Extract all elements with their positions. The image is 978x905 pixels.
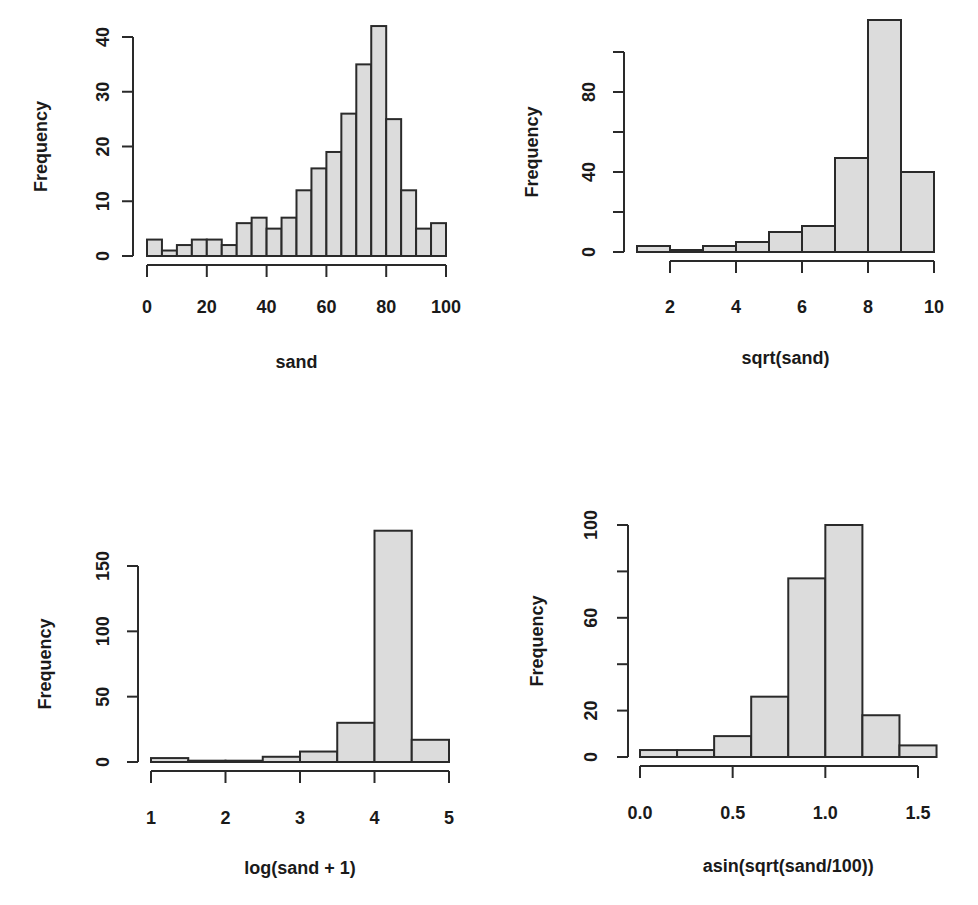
histogram-bar bbox=[868, 20, 901, 252]
x-axis-label: asin(sqrt(sand/100)) bbox=[703, 856, 874, 876]
histogram-bar bbox=[151, 758, 188, 762]
x-tick-label: 1.5 bbox=[905, 803, 930, 823]
y-axis-label: Frequency bbox=[31, 101, 51, 192]
x-tick-label: 2 bbox=[220, 808, 230, 828]
x-tick-label: 5 bbox=[444, 808, 454, 828]
histogram-bar bbox=[703, 246, 736, 252]
histogram-bar bbox=[375, 531, 412, 762]
histogram-bar bbox=[162, 251, 177, 256]
x-tick-label: 10 bbox=[924, 297, 944, 317]
histogram-bar bbox=[736, 242, 769, 252]
histogram-panel-3: 05010015012345log(sand + 1)Frequency bbox=[35, 531, 454, 878]
y-tick-label: 80 bbox=[579, 82, 599, 102]
x-tick-label: 4 bbox=[369, 808, 379, 828]
histogram-bar bbox=[769, 232, 802, 252]
x-tick-label: 0.5 bbox=[720, 803, 745, 823]
histogram-bar bbox=[300, 752, 337, 762]
histogram-grid: 010203040020406080100sandFrequency040802… bbox=[0, 0, 978, 905]
y-tick-label: 40 bbox=[579, 162, 599, 182]
histogram-bar bbox=[282, 218, 297, 256]
histogram-bar bbox=[252, 218, 267, 256]
histogram-bar bbox=[862, 715, 899, 757]
x-tick-label: 0 bbox=[142, 297, 152, 317]
x-tick-label: 0.0 bbox=[627, 803, 652, 823]
histogram-bar bbox=[899, 745, 936, 757]
histogram-bar bbox=[386, 119, 401, 256]
histogram-bar bbox=[825, 525, 862, 757]
histogram-bar bbox=[207, 240, 222, 256]
histogram-bar bbox=[177, 245, 192, 256]
y-tick-label: 0 bbox=[579, 247, 599, 257]
histogram-bar bbox=[802, 226, 835, 252]
histogram-bar bbox=[835, 158, 868, 252]
histogram-bar bbox=[326, 152, 341, 256]
histogram-bar bbox=[670, 250, 703, 252]
histogram-bar bbox=[341, 114, 356, 256]
histogram-bar bbox=[147, 240, 162, 256]
histogram-bar bbox=[356, 64, 371, 256]
x-tick-label: 8 bbox=[863, 297, 873, 317]
y-axis: 02060100 bbox=[581, 510, 628, 762]
y-tick-label: 100 bbox=[581, 510, 601, 540]
histogram-bar bbox=[311, 168, 326, 256]
x-axis-label: sand bbox=[275, 352, 317, 372]
histogram-bar bbox=[677, 750, 714, 757]
x-tick-label: 6 bbox=[797, 297, 807, 317]
histogram-bar bbox=[267, 229, 282, 256]
histogram-bar bbox=[263, 757, 300, 762]
y-tick-label: 20 bbox=[93, 136, 113, 156]
x-tick-label: 1.0 bbox=[813, 803, 838, 823]
y-tick-label: 100 bbox=[93, 616, 113, 646]
histogram-bar bbox=[192, 240, 207, 256]
x-axis: 12345 bbox=[146, 771, 454, 828]
histogram-panel-2: 04080246810sqrt(sand)Frequency bbox=[522, 20, 944, 368]
y-axis-label: Frequency bbox=[35, 618, 55, 709]
histogram-bar bbox=[297, 190, 312, 256]
y-tick-label: 0 bbox=[93, 757, 113, 767]
y-axis-label: Frequency bbox=[522, 106, 542, 197]
x-tick-label: 4 bbox=[731, 297, 741, 317]
histogram-bar bbox=[371, 26, 386, 256]
histogram-bar bbox=[188, 761, 225, 762]
histogram-panel-4: 020601000.00.51.01.5asin(sqrt(sand/100))… bbox=[527, 510, 937, 876]
y-tick-label: 150 bbox=[93, 551, 113, 581]
y-tick-label: 20 bbox=[581, 701, 601, 721]
histogram-bar bbox=[714, 736, 751, 757]
y-axis: 04080 bbox=[579, 52, 624, 257]
x-tick-label: 2 bbox=[665, 297, 675, 317]
x-axis-label: sqrt(sand) bbox=[741, 348, 829, 368]
y-tick-label: 50 bbox=[93, 687, 113, 707]
x-tick-label: 100 bbox=[431, 297, 461, 317]
y-tick-label: 10 bbox=[93, 191, 113, 211]
x-axis-label: log(sand + 1) bbox=[244, 858, 356, 878]
y-tick-label: 0 bbox=[93, 251, 113, 261]
x-tick-label: 1 bbox=[146, 808, 156, 828]
histogram-bar bbox=[416, 229, 431, 256]
y-tick-label: 30 bbox=[93, 82, 113, 102]
x-tick-label: 80 bbox=[376, 297, 396, 317]
y-tick-label: 60 bbox=[581, 608, 601, 628]
y-axis: 050100150 bbox=[93, 551, 138, 767]
histogram-bar bbox=[901, 172, 934, 252]
histogram-bar bbox=[751, 697, 788, 757]
histogram-bar bbox=[640, 750, 677, 757]
x-axis: 020406080100 bbox=[142, 265, 461, 317]
x-tick-label: 20 bbox=[197, 297, 217, 317]
x-tick-label: 40 bbox=[257, 297, 277, 317]
histogram-bar bbox=[637, 246, 670, 252]
y-tick-label: 40 bbox=[93, 27, 113, 47]
x-axis: 246810 bbox=[665, 261, 944, 317]
histogram-bar bbox=[788, 578, 825, 757]
histogram-bar bbox=[237, 223, 252, 256]
y-axis-label: Frequency bbox=[527, 595, 547, 686]
x-axis: 0.00.51.01.5 bbox=[627, 766, 930, 823]
histogram-bar bbox=[401, 190, 416, 256]
y-axis: 010203040 bbox=[93, 27, 133, 261]
x-tick-label: 3 bbox=[295, 808, 305, 828]
x-tick-label: 60 bbox=[316, 297, 336, 317]
histogram-bar bbox=[226, 761, 263, 762]
histogram-bar bbox=[431, 223, 446, 256]
histogram-bar bbox=[222, 245, 237, 256]
y-tick-label: 0 bbox=[581, 752, 601, 762]
histogram-panel-1: 010203040020406080100sandFrequency bbox=[31, 26, 461, 372]
